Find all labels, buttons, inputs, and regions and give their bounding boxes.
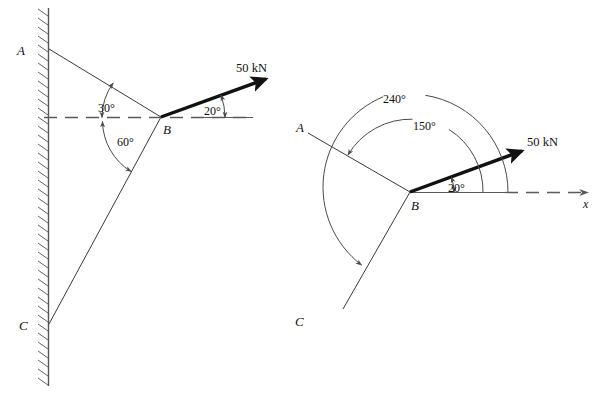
point-a-label: A (16, 43, 25, 58)
angle-arc-240-segment-left (323, 97, 383, 265)
wall-hatching (38, 9, 48, 385)
angle-20-label: 20° (204, 104, 221, 118)
angle-240-label: 240° (383, 92, 406, 106)
force-arrow-50kn (410, 151, 522, 192)
x-axis-label: x (582, 197, 589, 211)
point-a-label: A (295, 120, 304, 135)
force-label-50kn: 50 kN (236, 61, 267, 75)
angle-arc-150-segment-left (348, 119, 413, 155)
point-c-label: C (295, 314, 304, 329)
member-bc (49, 117, 161, 324)
angle-30-label: 30° (98, 101, 115, 115)
angle-150-label: 150° (413, 119, 436, 133)
point-c-label: C (19, 318, 28, 333)
angle-20-label: 20° (448, 181, 465, 195)
angle-arc-20 (221, 95, 225, 117)
left-panel: A B C 30° 60° 20° 50 kN (16, 8, 267, 386)
member-bc (343, 192, 410, 309)
force-label-50kn: 50 kN (527, 135, 558, 149)
right-panel: A B C 240° 150° 20° 50 kN x (295, 92, 589, 329)
point-b-label: B (163, 122, 171, 137)
angle-60-label: 60° (117, 135, 134, 149)
figure-root: A B C 30° 60° 20° 50 kN (0, 0, 604, 396)
angle-arc-240-segment-upper-right (426, 95, 509, 192)
point-b-label: B (411, 198, 419, 213)
statics-diagram-canvas: A B C 30° 60° 20° 50 kN (0, 0, 604, 396)
